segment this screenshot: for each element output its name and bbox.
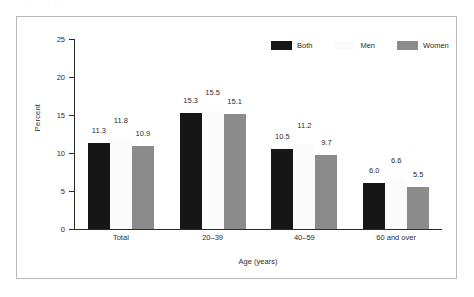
bar-men-1[interactable] xyxy=(110,139,132,229)
chart-figure-frame: 0510152025 Percent 11.311.810.9Total15.3… xyxy=(16,16,457,279)
legend-label: Both xyxy=(297,41,312,50)
y-axis-line xyxy=(74,39,75,230)
x-axis-title: Age (years) xyxy=(74,257,442,266)
bar-both-1[interactable] xyxy=(88,143,110,229)
y-axis-tick-label-wrap: 20 xyxy=(25,77,65,78)
y-axis-tick xyxy=(69,191,75,192)
y-axis-tick xyxy=(69,77,75,78)
legend-label: Women xyxy=(423,41,449,50)
legend-swatch-icon xyxy=(334,41,355,50)
x-axis-category-label: Total xyxy=(75,233,167,242)
bar-group: 6.06.65.5 xyxy=(363,39,429,229)
bar-men-2[interactable] xyxy=(202,111,224,229)
y-axis-tick-label: 10 xyxy=(31,149,65,158)
bar-value-label: 6.0 xyxy=(359,166,389,175)
legend-swatch-icon xyxy=(397,41,418,50)
bar-men-4[interactable] xyxy=(385,179,407,229)
bar-both-4[interactable] xyxy=(363,183,385,229)
bar-women-3[interactable] xyxy=(315,155,337,229)
y-axis-tick-label: 0 xyxy=(31,225,65,234)
y-axis-tick xyxy=(69,153,75,154)
bar-men-3[interactable] xyxy=(293,144,315,229)
x-axis-line xyxy=(74,229,442,230)
x-axis-category-label: 60 and over xyxy=(350,233,442,242)
y-axis-tick xyxy=(69,115,75,116)
bar-value-label: 10.9 xyxy=(128,129,158,138)
bar-value-label: 11.2 xyxy=(289,121,319,130)
y-axis-tick xyxy=(69,39,75,40)
legend-item-men[interactable]: Men xyxy=(334,41,375,50)
x-axis-category-label: 40–59 xyxy=(259,233,351,242)
y-axis-tick-label: 25 xyxy=(31,35,65,44)
legend-swatch-icon xyxy=(271,41,292,50)
x-axis-category-label: 20–39 xyxy=(167,233,259,242)
bar-women-4[interactable] xyxy=(407,187,429,229)
bar-value-label: 6.6 xyxy=(381,156,411,165)
y-axis-tick-label-wrap: 10 xyxy=(25,153,65,154)
scan-artifact-top-text: · · · · · · · xyxy=(20,0,190,9)
y-axis-tick xyxy=(69,229,75,230)
bar-value-label: 15.5 xyxy=(198,88,228,97)
bar-both-2[interactable] xyxy=(180,113,202,229)
bar-both-3[interactable] xyxy=(271,149,293,229)
bar-value-label: 15.1 xyxy=(220,97,250,106)
bar-group: 10.511.29.7 xyxy=(271,39,337,229)
bar-value-label: 5.5 xyxy=(403,170,433,179)
chart-legend: BothMenWomen xyxy=(271,39,449,51)
bar-group: 11.311.810.9 xyxy=(88,39,154,229)
y-axis-tick-label-wrap: 0 xyxy=(25,229,65,230)
legend-label: Men xyxy=(360,41,375,50)
bar-value-label: 11.3 xyxy=(84,126,114,135)
y-axis-tick-label: 5 xyxy=(31,187,65,196)
y-axis-title: Percent xyxy=(33,88,42,148)
bar-women-2[interactable] xyxy=(224,114,246,229)
bar-value-label: 9.7 xyxy=(311,138,341,147)
plot-area: 0510152025 Percent 11.311.810.9Total15.3… xyxy=(17,17,458,280)
bar-value-label: 11.8 xyxy=(106,116,136,125)
legend-item-women[interactable]: Women xyxy=(397,41,449,50)
bar-value-label: 10.5 xyxy=(267,132,297,141)
legend-item-both[interactable]: Both xyxy=(271,41,312,50)
bar-group: 15.315.515.1 xyxy=(180,39,246,229)
y-axis-tick-label-wrap: 25 xyxy=(25,39,65,40)
y-axis-tick-label-wrap: 5 xyxy=(25,191,65,192)
bar-women-1[interactable] xyxy=(132,146,154,229)
y-axis-tick-label: 20 xyxy=(31,73,65,82)
y-axis-tick-label-wrap: 15 xyxy=(25,115,65,116)
